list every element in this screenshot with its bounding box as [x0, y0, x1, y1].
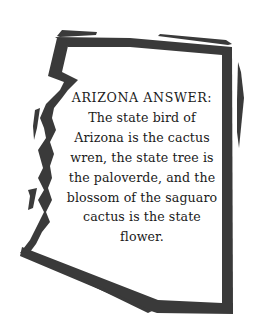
answer-line: flower. [60, 227, 224, 247]
answer-line: The state bird of [60, 108, 224, 128]
answer-line: cactus is the state [60, 207, 224, 227]
arizona-answer-card: ARIZONA ANSWER: The state bird of Arizon… [0, 0, 256, 334]
answer-line: blossom of the saguaro [60, 188, 224, 208]
answer-heading: ARIZONA ANSWER: [60, 88, 224, 108]
answer-line: Arizona is the cactus [60, 128, 224, 148]
answer-line: the paloverde, and the [60, 168, 224, 188]
answer-line: wren, the state tree is [60, 148, 224, 168]
answer-text-block: ARIZONA ANSWER: The state bird of Arizon… [60, 88, 224, 247]
